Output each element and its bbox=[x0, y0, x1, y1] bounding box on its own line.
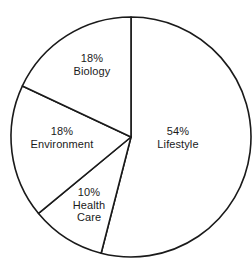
pie-chart: 54%Lifestyle10%Health Care18%Environment… bbox=[0, 0, 252, 266]
pie-chart-svg bbox=[0, 0, 252, 266]
